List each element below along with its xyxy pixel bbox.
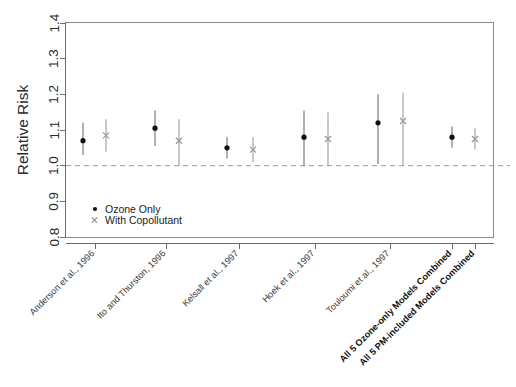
legend-marker-dot-icon (93, 207, 97, 211)
point-marker-dot-icon (224, 145, 229, 150)
y-tick-label: 0.9 (47, 192, 62, 211)
point-marker-dot-icon (152, 126, 157, 131)
y-axis-title: Relative Risk (14, 85, 31, 176)
forest-plot-figure: 0.80.91.01.11.21.31.4 Relative Risk Ande… (0, 0, 516, 387)
y-tick-label: 1.2 (47, 85, 62, 104)
y-tick-label: 1.3 (47, 49, 62, 68)
relative-risk-forest-plot: 0.80.91.01.11.21.31.4 Relative Risk Ande… (0, 0, 516, 387)
point-marker-dot-icon (301, 135, 306, 140)
point-marker-dot-icon (375, 120, 380, 125)
y-tick-label: 1.0 (47, 156, 62, 175)
point-marker-dot-icon (80, 138, 85, 143)
y-tick-label: 1.4 (47, 13, 62, 32)
y-tick-label: 1.1 (47, 121, 62, 140)
point-marker-dot-icon (449, 135, 454, 140)
legend-label-with-copollutant: With Copollutant (105, 214, 182, 226)
figure-background (0, 0, 516, 387)
y-tick-label: 0.8 (47, 228, 62, 247)
